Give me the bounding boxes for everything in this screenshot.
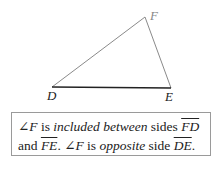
segment-fd: FD xyxy=(181,119,199,134)
vertex-e-label: E xyxy=(165,90,173,103)
text: . xyxy=(192,138,195,153)
text: is xyxy=(38,119,54,134)
angle-symbol: ∠ xyxy=(64,138,75,153)
vertex-d-label: D xyxy=(47,89,56,102)
caption-line-1: ∠F is included between sides FD xyxy=(18,117,210,136)
angle-name: F xyxy=(29,119,37,134)
angle-symbol: ∠ xyxy=(18,119,29,134)
emphasis-opposite: opposite xyxy=(99,138,145,153)
side-fd xyxy=(52,17,145,87)
side-fe xyxy=(145,17,171,88)
caption-line-2: and FE. ∠F is opposite side DE. xyxy=(18,136,210,155)
text: side xyxy=(145,138,174,153)
text: and xyxy=(18,138,41,153)
text: is xyxy=(84,138,100,153)
side-de xyxy=(52,87,171,88)
vertex-f-label: F xyxy=(150,9,158,22)
emphasis-included-between: included between xyxy=(53,119,147,134)
segment-fe: FE xyxy=(41,138,58,153)
triangle-def xyxy=(0,0,214,100)
segment-de: DE xyxy=(174,138,192,153)
angle-name: F xyxy=(75,138,83,153)
caption-box: ∠F is included between sides FD and FE. … xyxy=(11,112,211,156)
text: sides xyxy=(147,119,181,134)
